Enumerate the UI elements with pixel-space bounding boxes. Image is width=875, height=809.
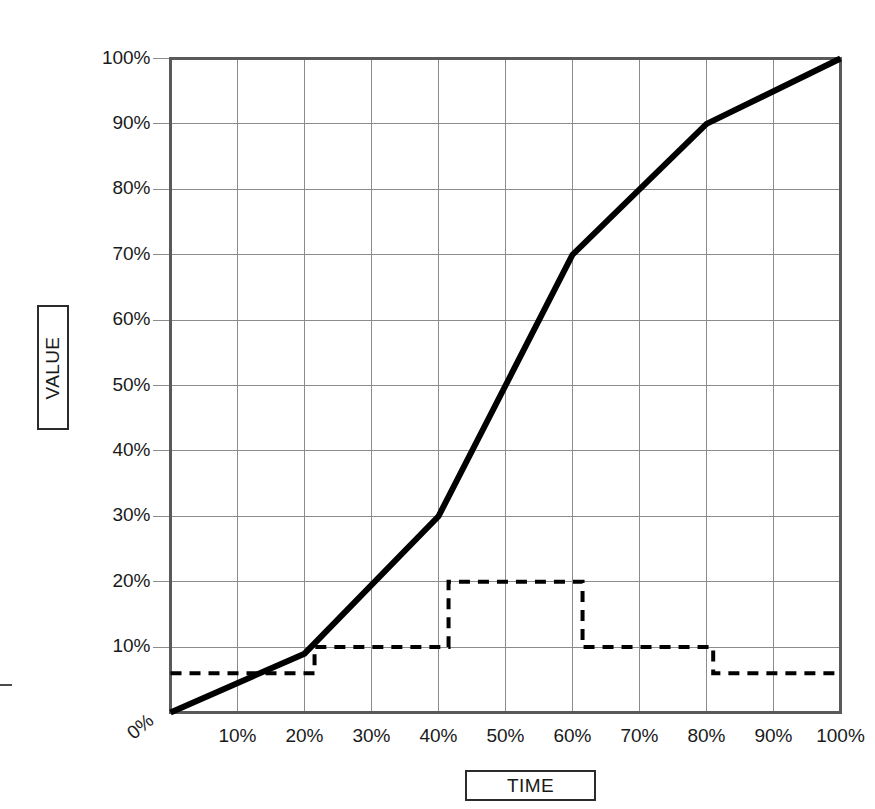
y-tick-label: 70% <box>89 243 151 265</box>
y-tick-label: 80% <box>89 177 151 199</box>
y-tick-label: 10% <box>89 635 151 657</box>
y-tick-label: 50% <box>89 374 151 396</box>
y-tick-label: 40% <box>89 439 151 461</box>
x-tick-label: 30% <box>337 725 407 747</box>
y-tick-label: 60% <box>89 308 151 330</box>
x-tick-label: 50% <box>471 725 541 747</box>
gridlines <box>153 59 841 713</box>
y-tick-label: 20% <box>89 570 151 592</box>
x-tick-label: 60% <box>538 725 608 747</box>
x-tick-label: 70% <box>605 725 675 747</box>
x-tick-label: 10% <box>203 725 273 747</box>
y-tick-label: 100% <box>89 47 151 69</box>
y-tick-label: 90% <box>89 112 151 134</box>
x-tick-label: 20% <box>270 725 340 747</box>
chart-container: VALUE TIME 0%10%20%30%40%50%60%70%80%90%… <box>0 0 875 809</box>
x-tick-label: 100% <box>806 725 875 747</box>
x-tick-label: 40% <box>404 725 474 747</box>
x-tick-label: 80% <box>672 725 742 747</box>
x-tick-label: 90% <box>739 725 809 747</box>
y-tick-label: 30% <box>89 504 151 526</box>
